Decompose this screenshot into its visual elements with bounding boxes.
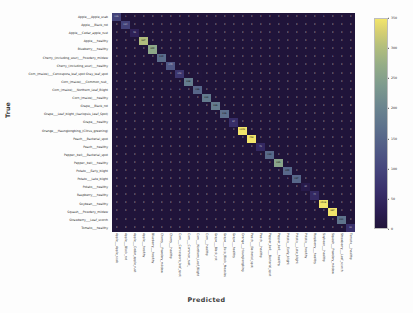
heatmap-cell: 0 [202, 159, 211, 167]
heatmap-cell: 0 [184, 37, 193, 45]
heatmap-cell: 0 [166, 224, 175, 232]
heatmap-cell: 0 [157, 86, 166, 94]
y-axis-tick-label: Cherry_(including_sour)___Powdery_mildew [43, 54, 108, 62]
heatmap-cell: 0 [121, 70, 130, 78]
heatmap-cell: 0 [274, 29, 283, 37]
heatmap-cell: 0 [139, 191, 148, 199]
heatmap-cell: 0 [202, 224, 211, 232]
heatmap-cell: 0 [346, 159, 355, 167]
heatmap-cell: 0 [148, 54, 157, 62]
heatmap-cell: 0 [148, 191, 157, 199]
heatmap-cell: 367 [328, 208, 337, 216]
heatmap-cell: 0 [319, 110, 328, 118]
heatmap-cell: 0 [184, 127, 193, 135]
y-axis-tick-label: Squash___Powdery_mildew [67, 208, 108, 216]
heatmap-cell: 0 [337, 159, 346, 167]
heatmap-cell: 0 [247, 167, 256, 175]
heatmap-cell: 0 [337, 200, 346, 208]
heatmap-cell: 0 [202, 200, 211, 208]
heatmap-cell: 0 [301, 110, 310, 118]
heatmap-cell: 0 [328, 127, 337, 135]
heatmap-cell: 0 [184, 208, 193, 216]
heatmap-cell: 0 [310, 135, 319, 143]
heatmap-cell: 0 [346, 110, 355, 118]
heatmap-cell: 0 [310, 102, 319, 110]
heatmap-cell: 0 [310, 208, 319, 216]
heatmap-cell: 0 [184, 175, 193, 183]
heatmap-cell: 0 [319, 191, 328, 199]
y-axis-tick-label: Grape___Black_rot [81, 102, 108, 110]
heatmap-cell: 0 [319, 208, 328, 216]
y-axis-tick-label: Potato___healthy [83, 183, 108, 191]
heatmap-cell: 0 [112, 175, 121, 183]
heatmap-cell: 0 [112, 143, 121, 151]
heatmap-cell: 0 [265, 78, 274, 86]
heatmap-cell: 0 [148, 183, 157, 191]
heatmap-cell: 0 [265, 167, 274, 175]
heatmap-cell: 0 [301, 224, 310, 232]
heatmap-cell: 0 [202, 70, 211, 78]
heatmap-cell: 0 [229, 216, 238, 224]
heatmap-cell: 0 [283, 224, 292, 232]
heatmap-cell: 126 [112, 13, 121, 21]
heatmap-cell: 0 [157, 62, 166, 70]
heatmap-cell: 1018 [319, 200, 328, 208]
heatmap-cell: 0 [301, 175, 310, 183]
heatmap-cell: 0 [256, 200, 265, 208]
heatmap-cell: 0 [274, 151, 283, 159]
heatmap-cell: 0 [202, 54, 211, 62]
heatmap-cell: 0 [166, 159, 175, 167]
heatmap-cell: 0 [220, 200, 229, 208]
heatmap-cell: 0 [238, 62, 247, 70]
heatmap-cell: 0 [256, 159, 265, 167]
heatmap-cell: 0 [319, 135, 328, 143]
heatmap-cell: 0 [175, 167, 184, 175]
heatmap-cell: 0 [202, 135, 211, 143]
heatmap-cell: 0 [130, 191, 139, 199]
colorbar-tick-labels: 050100150200250300350 [389, 18, 413, 229]
x-axis-tick-label: Cherry___healthy [169, 233, 173, 259]
heatmap-cell: 0 [247, 151, 256, 159]
heatmap-cell: 0 [256, 86, 265, 94]
heatmap-cell: 0 [175, 62, 184, 70]
heatmap-cell: 0 [112, 45, 121, 53]
heatmap-cell: 0 [193, 13, 202, 21]
colorbar-tick-label: 150 [391, 137, 397, 141]
heatmap-cell: 0 [148, 13, 157, 21]
y-axis-tick-label: Blueberry___healthy [78, 45, 108, 53]
heatmap-cell: 0 [229, 70, 238, 78]
heatmap-cell: 0 [292, 37, 301, 45]
heatmap-cell: 0 [319, 21, 328, 29]
heatmap-cell: 0 [220, 62, 229, 70]
heatmap-cell: 0 [202, 62, 211, 70]
heatmap-cell: 0 [139, 54, 148, 62]
heatmap-cell: 0 [346, 54, 355, 62]
heatmap-cell: 0 [139, 167, 148, 175]
y-axis-tick-label: Pepper,_bell___Bacterial_spot [64, 151, 108, 159]
heatmap-cell: 0 [292, 102, 301, 110]
heatmap-cell: 0 [211, 200, 220, 208]
heatmap-cell: 0 [202, 45, 211, 53]
x-axis-tick-label: Potato___Late_blight [295, 233, 299, 264]
heatmap-cell: 0 [148, 151, 157, 159]
x-axis-tick-label: Strawberry___Leaf_scorch [340, 233, 344, 272]
heatmap-cell: 0 [202, 191, 211, 199]
heatmap-cell: 0 [184, 135, 193, 143]
heatmap-cell: 0 [283, 86, 292, 94]
heatmap-cell: 0 [148, 78, 157, 86]
heatmap-cell: 0 [256, 191, 265, 199]
heatmap-cell: 0 [283, 200, 292, 208]
heatmap-cell: 0 [202, 216, 211, 224]
heatmap-cell: 0 [292, 127, 301, 135]
heatmap-cell: 0 [175, 200, 184, 208]
heatmap-cell: 0 [211, 159, 220, 167]
heatmap-cell: 0 [157, 208, 166, 216]
heatmap-cell: 0 [211, 143, 220, 151]
heatmap-cell: 0 [292, 78, 301, 86]
x-axis-tick-label: Peach___Bacterial_spot [250, 233, 254, 268]
heatmap-cell: 0 [229, 45, 238, 53]
heatmap-cell-grid: 1261000000000000000000000100001240000000… [112, 13, 355, 232]
heatmap-cell: 0 [337, 78, 346, 86]
heatmap-cell: 0 [112, 200, 121, 208]
heatmap-cell: 0 [265, 54, 274, 62]
